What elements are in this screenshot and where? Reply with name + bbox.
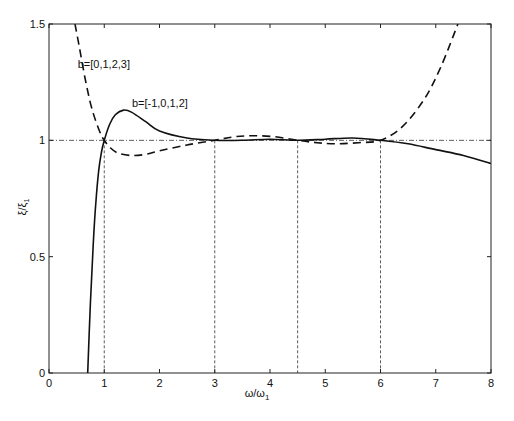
x-tick-label: 6 [377, 377, 383, 389]
x-tick-label: 3 [212, 377, 218, 389]
x-tick-label: 5 [322, 377, 328, 389]
series-dashed-b-0-1-2-3 [75, 24, 458, 156]
x-axis-label: ω/ω1 [245, 387, 270, 402]
reference-lines [49, 140, 491, 373]
annotations: b=[0,1,2,3]b=[-1,0,1,2] [78, 58, 188, 108]
series-annotation: b=[0,1,2,3] [78, 58, 130, 70]
y-tick-label: 0 [39, 367, 45, 379]
x-tick-label: 2 [156, 377, 162, 389]
y-tick-label: 1 [39, 134, 45, 146]
axes-box [49, 24, 491, 373]
x-tick-label: 8 [488, 377, 494, 389]
series-layer [75, 24, 491, 373]
series-solid-b-m1-0-1-2 [88, 110, 491, 373]
chart: 01234567800.511.5 b=[0,1,2,3]b=[-1,0,1,2… [0, 0, 514, 421]
x-tick-label: 0 [46, 377, 52, 389]
x-tick-label: 1 [101, 377, 107, 389]
x-tick-label: 7 [433, 377, 439, 389]
axes [49, 24, 491, 373]
x-tick-label: 4 [267, 377, 273, 389]
ticks: 01234567800.511.5 [30, 18, 494, 389]
y-tick-label: 0.5 [30, 251, 45, 263]
series-annotation: b=[-1,0,1,2] [132, 97, 188, 109]
y-axis-label: ξ/ξ1 [16, 198, 30, 215]
y-tick-label: 1.5 [30, 18, 45, 30]
